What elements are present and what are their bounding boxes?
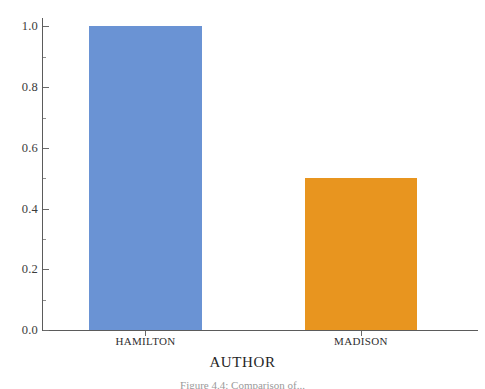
x-axis-line bbox=[42, 330, 478, 331]
y-tick-minor-4 bbox=[43, 57, 46, 58]
y-tick-major-3 bbox=[43, 148, 49, 149]
y-tick-major-2 bbox=[43, 209, 49, 210]
y-tick-major-1 bbox=[43, 269, 49, 270]
y-tick-label-2: 0.4 bbox=[0, 203, 38, 216]
y-tick-minor-0 bbox=[43, 300, 46, 301]
x-tick-label-madison: MADISON bbox=[295, 334, 427, 348]
y-tick-major-5 bbox=[43, 26, 49, 27]
figure-caption: Figure 4.4: Comparison of... bbox=[0, 379, 485, 389]
y-tick-minor-1 bbox=[43, 239, 46, 240]
y-tick-minor-2 bbox=[43, 178, 46, 179]
x-axis-title: AUTHOR bbox=[0, 353, 485, 371]
y-tick-label-3: 0.6 bbox=[0, 142, 38, 155]
bar-hamilton[interactable] bbox=[89, 26, 202, 330]
x-tick-label-hamilton: HAMILTON bbox=[79, 334, 212, 348]
bar-chart-plot-area: 0.0 0.2 0.4 0.6 0.8 1.0 HAMILTON MADISON… bbox=[0, 0, 485, 389]
bar-madison[interactable] bbox=[305, 178, 417, 330]
y-tick-major-0 bbox=[43, 330, 49, 331]
figure-caption-clip: Figure 4.4: Comparison of... bbox=[0, 379, 485, 389]
y-tick-label-5: 1.0 bbox=[0, 20, 38, 33]
y-axis-line bbox=[42, 18, 43, 331]
y-tick-major-4 bbox=[43, 87, 49, 88]
y-tick-minor-3 bbox=[43, 118, 46, 119]
y-tick-label-1: 0.2 bbox=[0, 263, 38, 276]
y-tick-label-0: 0.0 bbox=[0, 324, 38, 337]
figure: 0.0 0.2 0.4 0.6 0.8 1.0 HAMILTON MADISON… bbox=[0, 0, 485, 389]
y-tick-label-4: 0.8 bbox=[0, 81, 38, 94]
